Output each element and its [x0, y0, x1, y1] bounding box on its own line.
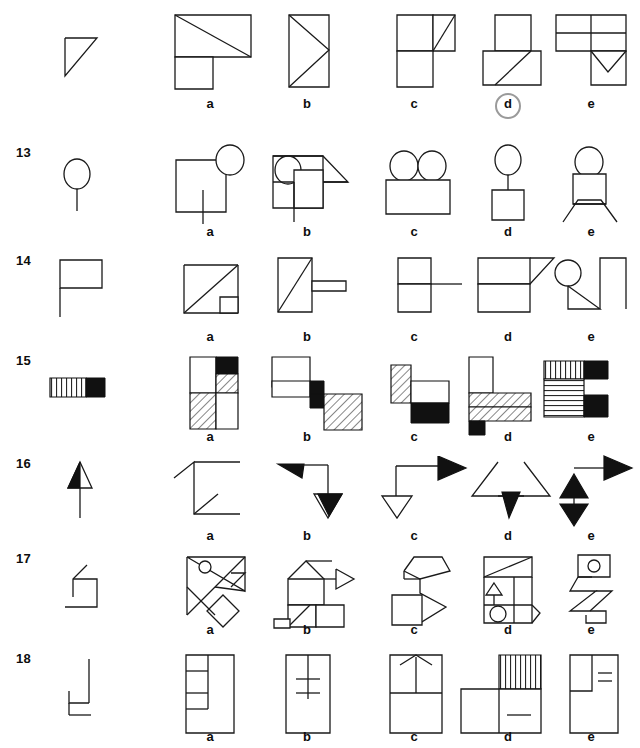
question-row-16: 16	[0, 448, 640, 548]
option-figure-16-a[interactable]	[168, 456, 258, 526]
prompt-figure-12	[55, 28, 115, 83]
prompt-figure-16	[60, 456, 110, 526]
option-figure-18-c[interactable]	[382, 649, 462, 739]
option-label-13-b: b	[292, 224, 322, 239]
option-label-15-c: c	[399, 429, 429, 444]
option-label-13-a: a	[195, 224, 225, 239]
option-label-14-b: b	[292, 329, 322, 344]
option-figure-14-d[interactable]	[470, 253, 560, 323]
question-row-15: 15	[0, 345, 640, 450]
prompt-figure-13	[55, 155, 115, 215]
option-label-18-c: c	[399, 729, 429, 744]
question-row-14: 14	[0, 245, 640, 350]
option-figure-12-a[interactable]	[170, 10, 260, 90]
option-figure-18-d[interactable]	[455, 649, 555, 739]
test-sheet: a b c d e 13	[0, 0, 640, 748]
option-figure-12-e[interactable]	[553, 10, 633, 90]
option-figure-14-e[interactable]	[552, 253, 637, 323]
option-figure-12-d[interactable]	[480, 10, 560, 90]
option-figure-15-a[interactable]	[182, 351, 252, 441]
option-label-16-d: d	[493, 528, 523, 543]
option-label-13-d: d	[493, 224, 523, 239]
option-figure-15-b[interactable]	[268, 351, 368, 441]
prompt-figure-14	[50, 255, 120, 325]
option-label-14-d: d	[493, 329, 523, 344]
question-row-12: a b c d e	[0, 0, 640, 118]
option-label-13-c: c	[399, 224, 429, 239]
row-number-17: 17	[16, 551, 31, 566]
option-label-18-d: d	[493, 729, 523, 744]
option-label-15-d: d	[493, 429, 523, 444]
option-label-14-a: a	[195, 329, 225, 344]
option-figure-16-e[interactable]	[550, 452, 640, 530]
option-label-13-e: e	[576, 224, 606, 239]
option-figure-15-e[interactable]	[540, 355, 630, 435]
option-figure-14-c[interactable]	[390, 253, 470, 323]
option-label-12-b: b	[292, 96, 322, 111]
option-label-15-e: e	[576, 429, 606, 444]
prompt-figure-17	[55, 555, 115, 625]
option-label-12-d: d	[493, 96, 523, 111]
question-row-18: 18	[0, 643, 640, 748]
question-row-13: 13	[0, 130, 640, 245]
option-label-17-b: b	[292, 622, 322, 637]
option-figure-18-e[interactable]	[560, 649, 630, 739]
option-label-16-a: a	[195, 528, 225, 543]
option-figure-18-b[interactable]	[278, 649, 348, 739]
option-figure-13-d[interactable]	[478, 142, 548, 232]
option-label-15-b: b	[292, 429, 322, 444]
option-label-16-b: b	[292, 528, 322, 543]
row-number-16: 16	[16, 456, 31, 471]
option-figure-12-c[interactable]	[392, 10, 462, 90]
row-number-15: 15	[16, 353, 31, 368]
option-label-12-a: a	[195, 96, 225, 111]
option-figure-13-e[interactable]	[553, 142, 633, 232]
option-figure-16-d[interactable]	[462, 456, 562, 526]
option-label-18-b: b	[292, 729, 322, 744]
option-figure-12-b[interactable]	[283, 10, 343, 90]
option-figure-16-b[interactable]	[272, 456, 352, 526]
option-label-18-e: e	[576, 729, 606, 744]
option-label-17-a: a	[195, 622, 225, 637]
option-label-16-c: c	[399, 528, 429, 543]
option-label-18-a: a	[195, 729, 225, 744]
prompt-figure-15	[46, 370, 126, 410]
option-label-17-e: e	[576, 622, 606, 637]
option-label-17-d: d	[493, 622, 523, 637]
option-figure-14-a[interactable]	[176, 257, 256, 327]
row-number-14: 14	[16, 253, 31, 268]
option-label-17-c: c	[399, 622, 429, 637]
option-label-15-a: a	[195, 429, 225, 444]
option-label-14-c: c	[399, 329, 429, 344]
option-label-14-e: e	[576, 329, 606, 344]
option-figure-13-b[interactable]	[268, 142, 358, 232]
option-label-16-e: e	[576, 528, 606, 543]
option-figure-13-c[interactable]	[380, 142, 460, 232]
row-number-18: 18	[16, 651, 31, 666]
option-figure-13-a[interactable]	[168, 142, 258, 232]
option-figure-18-a[interactable]	[178, 649, 248, 739]
option-figure-16-c[interactable]	[380, 456, 470, 526]
row-number-13: 13	[16, 145, 31, 160]
prompt-figure-18	[55, 651, 115, 726]
option-label-12-c: c	[399, 96, 429, 111]
question-row-17: 17	[0, 543, 640, 643]
option-label-12-e: e	[576, 96, 606, 111]
option-figure-14-b[interactable]	[270, 253, 360, 323]
